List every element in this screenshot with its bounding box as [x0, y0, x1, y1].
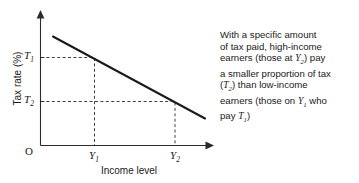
x-axis-title: Income level	[74, 165, 184, 176]
annotation-variable: Y2	[295, 52, 304, 63]
x-tick-label-y2: Y2	[170, 150, 180, 164]
y-tick-label-t1: T1	[24, 50, 34, 64]
y-tick-label-t2: T2	[24, 94, 34, 108]
x-tick-label-y2-subscript: 2	[176, 155, 180, 164]
annotation-line6: earners (those on Y1 who	[220, 95, 356, 111]
annotation-variable-subscript: 1	[243, 116, 246, 123]
guide-t2-y2	[41, 102, 175, 146]
annotation-text-block: With a specific amountof tax paid, high-…	[220, 29, 356, 126]
y-axis-title: Tax rate (%)	[12, 43, 23, 115]
annotation-variable-subscript: 2	[229, 85, 232, 92]
x-axis-arrowhead	[206, 142, 215, 150]
annotation-line5: (T2) than low-income	[220, 79, 356, 95]
annotation-variable-subscript: 1	[303, 101, 306, 108]
origin-label: O	[25, 146, 33, 157]
y-tick-label-t2-subscript: 2	[30, 99, 34, 108]
annotation-variable: T2	[223, 79, 232, 90]
annotation-line1: With a specific amount	[220, 29, 356, 41]
tax-rate-diagram: T1 T2 Y1 Y2 O Tax rate (%) Income level …	[0, 0, 359, 183]
annotation-variable-subscript: 2	[301, 58, 304, 65]
annotation-line3: earners (those at Y2) pay	[220, 52, 356, 68]
x-tick-label-y1: Y1	[89, 150, 99, 164]
annotation-line4: a smaller proportion of tax	[220, 68, 356, 80]
x-tick-label-y1-subscript: 1	[95, 155, 99, 164]
annotation-variable: Y1	[298, 95, 307, 106]
annotation-line7: pay T1)	[220, 110, 356, 126]
annotation-line2: of tax paid, high-income	[220, 41, 356, 53]
tax-rate-line	[53, 37, 205, 119]
y-tick-label-t1-subscript: 1	[30, 55, 34, 64]
y-axis-arrowhead	[37, 10, 45, 19]
annotation-variable: T1	[238, 110, 247, 121]
